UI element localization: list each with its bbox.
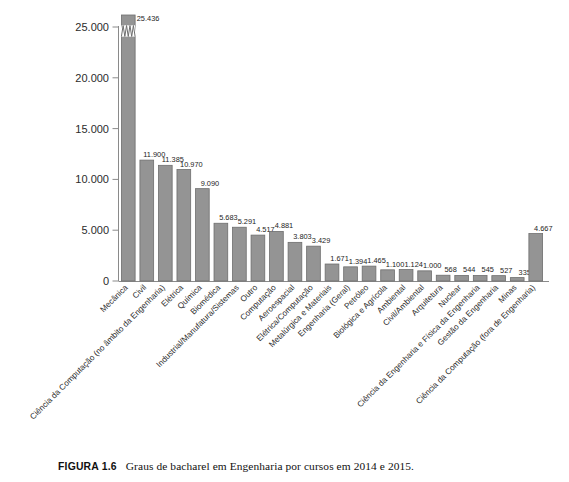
y-axis-tick-label: 0	[103, 275, 109, 287]
bar-value-label: 9.090	[201, 179, 220, 188]
bar	[529, 234, 543, 281]
bar	[399, 270, 413, 281]
bar-value-label: 5.291	[238, 217, 257, 226]
bar-group: 527	[492, 266, 513, 281]
y-axis-tick-label: 10.000	[75, 173, 109, 185]
bar-value-label: 4.667	[534, 224, 553, 233]
bar-chart-canvas: 05.00010.00015.00020.00025.00025.43611.9…	[0, 0, 569, 482]
bar-value-label: 5.683	[219, 213, 238, 222]
bar-value-label: 544	[463, 265, 475, 274]
bar-value-label: 1.465	[367, 256, 386, 265]
bar	[492, 276, 506, 281]
bar	[121, 15, 135, 281]
bar-group: 545	[473, 265, 494, 281]
figure-caption-label: FIGURA 1.6	[58, 461, 117, 472]
bar	[140, 160, 154, 281]
bar	[233, 227, 247, 281]
bar-value-label: 545	[482, 265, 494, 274]
bar	[158, 165, 172, 281]
bar	[177, 170, 191, 281]
y-axis-tick-label: 20.000	[75, 72, 109, 84]
bar-value-label: 568	[444, 265, 456, 274]
figure-caption-text: Graus de bacharel em Engenharia por curs…	[126, 460, 414, 472]
figure-chart: 05.00010.00015.00020.00025.00025.43611.9…	[0, 0, 569, 482]
bar-value-label: 1.671	[330, 254, 349, 263]
bar-value-label: 527	[500, 266, 512, 275]
bar	[510, 278, 524, 281]
bar-value-label: 1.000	[423, 261, 442, 270]
bar-value-label: 1.100	[386, 260, 405, 269]
bar	[325, 264, 339, 281]
bar	[270, 231, 284, 281]
bar	[195, 189, 209, 281]
bar	[251, 235, 265, 281]
bar	[473, 275, 487, 281]
bar-group: 335	[510, 268, 531, 281]
bar	[362, 266, 376, 281]
bar-value-label: 4.881	[275, 221, 294, 230]
bar-value-label: 3.803	[293, 232, 312, 241]
bar	[214, 223, 228, 281]
bar-group: 4.667	[529, 224, 553, 281]
bar	[418, 271, 432, 281]
figure-caption: FIGURA 1.6Graus de bacharel em Engenhari…	[58, 460, 558, 472]
x-axis-category-label: Ciência da Computação (no âmbito da Enge…	[28, 283, 167, 422]
bar-value-label: 1.394	[349, 257, 368, 266]
y-axis-tick-label: 15.000	[75, 123, 109, 135]
bar	[307, 246, 321, 281]
bar-value-label: 3.429	[312, 236, 331, 245]
y-axis-tick-label: 25.000	[75, 21, 109, 33]
bar	[344, 267, 358, 281]
bar-value-label: 25.436	[137, 14, 160, 23]
bar	[381, 270, 395, 281]
bar	[455, 275, 469, 281]
bar-value-label: 1.124	[404, 260, 423, 269]
y-axis-tick-label: 5.000	[81, 224, 109, 236]
bar	[288, 242, 302, 281]
bar-group: 544	[455, 265, 476, 281]
x-axis-category-label: Mecânica	[99, 283, 130, 314]
bar-value-label: 10.970	[180, 160, 203, 169]
bar	[436, 275, 450, 281]
